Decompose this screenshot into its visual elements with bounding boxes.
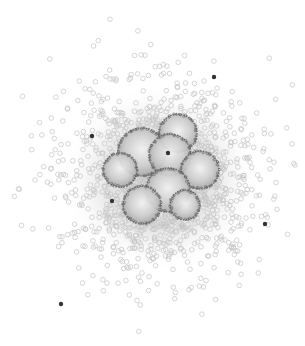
peripheral-node [76,266,81,271]
peripheral-node [101,277,106,282]
peripheral-node [50,129,55,134]
peripheral-node [53,147,58,152]
peripheral-node [56,244,61,249]
peripheral-node [238,101,243,106]
peripheral-node [248,228,253,233]
peripheral-node [107,68,112,73]
peripheral-node [82,110,87,115]
peripheral-node [212,265,217,270]
peripheral-node [268,167,273,172]
peripheral-node [91,91,96,96]
peripheral-node [146,73,151,78]
peripheral-node [56,159,61,164]
peripheral-node [76,98,81,103]
peripheral-node [165,64,170,69]
peripheral-node [146,288,151,293]
peripheral-node [127,293,132,298]
peripheral-node [285,232,290,237]
peripheral-node [86,292,91,297]
peripheral-node [290,83,295,88]
peripheral-node [127,77,132,82]
peripheral-node [262,131,267,136]
peripheral-node [46,226,51,231]
peripheral-node [12,194,17,199]
peripheral-node [105,281,110,286]
peripheral-node [269,132,274,137]
peripheral-node [83,87,88,92]
peripheral-node [200,312,205,317]
highlight-node [212,75,216,79]
peripheral-node [204,278,209,283]
highlight-node [166,151,170,155]
peripheral-node [176,60,181,65]
peripheral-node [58,151,63,156]
peripheral-node [29,134,34,139]
peripheral-node [20,94,25,99]
highlight-node [59,302,63,306]
peripheral-node [96,38,101,43]
peripheral-node [137,329,142,334]
peripheral-node [290,142,295,147]
peripheral-node [49,116,54,121]
peripheral-node [262,127,267,132]
peripheral-node [173,290,178,295]
peripheral-node [257,257,262,262]
peripheral-node [157,64,162,69]
peripheral-node [93,80,98,85]
peripheral-node [60,240,65,245]
peripheral-node [272,197,277,202]
peripheral-node [226,270,231,275]
peripheral-node [61,89,66,94]
peripheral-node [19,223,24,228]
peripheral-node [230,89,235,94]
peripheral-node [261,147,266,152]
peripheral-node [265,215,270,220]
peripheral-node [104,74,109,79]
peripheral-node [237,243,242,248]
peripheral-node [135,298,140,303]
peripheral-node [89,101,94,106]
peripheral-node [40,133,45,138]
peripheral-node [141,76,146,81]
peripheral-node [42,164,47,169]
peripheral-node [171,285,176,290]
peripheral-node [197,284,202,289]
peripheral-node [99,255,104,260]
network-diagram [0,0,305,346]
peripheral-node [172,296,177,301]
peripheral-node [149,42,154,47]
peripheral-node [243,121,248,126]
peripheral-node [52,196,57,201]
peripheral-node [124,278,129,283]
peripheral-node [52,136,57,141]
peripheral-node [250,133,255,138]
peripheral-node [101,288,106,293]
peripheral-node [267,56,272,61]
peripheral-node [116,281,121,286]
peripheral-node [31,227,36,232]
peripheral-node [108,17,113,22]
peripheral-node [275,207,280,212]
peripheral-node [274,180,279,185]
highlight-node [110,199,114,203]
peripheral-node [147,274,152,279]
peripheral-node [54,95,59,100]
peripheral-node [263,213,268,218]
peripheral-node [183,81,188,86]
peripheral-node [132,53,137,58]
peripheral-node [213,297,218,302]
peripheral-node [284,126,289,131]
peripheral-node [199,276,204,281]
peripheral-node [59,142,64,147]
peripheral-node [155,282,160,287]
highlight-node [90,134,94,138]
peripheral-node [182,53,187,58]
peripheral-node [66,232,71,237]
peripheral-node [138,279,143,284]
peripheral-node [229,100,234,105]
peripheral-node [239,272,244,277]
peripheral-node [272,160,277,165]
peripheral-node [214,93,219,98]
peripheral-node [167,71,172,76]
peripheral-node [138,303,143,308]
